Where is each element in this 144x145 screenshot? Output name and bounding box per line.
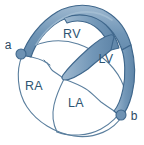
marker-dot-b[interactable]	[116, 110, 126, 120]
marker-label-a: a	[5, 38, 12, 52]
marker-dot-a[interactable]	[16, 49, 26, 59]
marker-label-b: b	[131, 109, 138, 123]
chamber-label-ra: RA	[25, 79, 43, 93]
chamber-label-la: LA	[68, 96, 84, 110]
heart-diagram-figure: RV LV RA LA a b	[0, 0, 144, 145]
heart-diagram-svg: RV LV RA LA a b	[0, 0, 144, 145]
chamber-label-rv: RV	[63, 27, 81, 41]
chamber-label-lv: LV	[98, 52, 113, 66]
